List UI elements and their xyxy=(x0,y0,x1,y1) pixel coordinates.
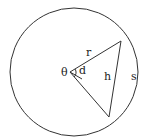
circle-diagram: θ r d h s xyxy=(0,0,148,138)
radius-line-top xyxy=(70,41,121,72)
radius-label: r xyxy=(86,46,92,59)
apothem-label: d xyxy=(79,64,86,77)
chord-label: h xyxy=(104,70,111,83)
arc-label: s xyxy=(131,70,137,83)
circle xyxy=(10,8,138,136)
theta-label: θ xyxy=(61,66,68,79)
